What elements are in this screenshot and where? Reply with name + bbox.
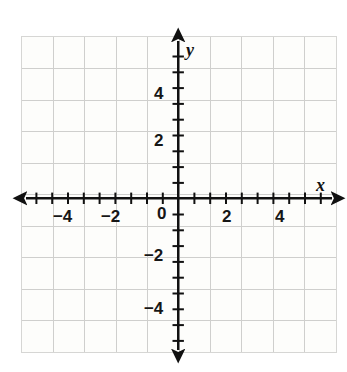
x-axis-label: x xyxy=(316,176,325,194)
x-tick-label-neg4: −4 xyxy=(53,208,72,225)
axes-layer xyxy=(0,0,347,372)
y-tick-label-pos2: 2 xyxy=(154,132,163,149)
x-tick-label-pos2: 2 xyxy=(222,208,231,225)
x-tick-label-neg2: −2 xyxy=(101,208,120,225)
origin-label: 0 xyxy=(157,205,166,222)
y-tick-label-pos4: 4 xyxy=(154,85,163,102)
x-tick-label-pos4: 4 xyxy=(275,208,284,225)
y-tick-label-neg4: −4 xyxy=(144,300,163,317)
coordinate-plane-figure: −4 −2 0 2 4 4 2 −2 −4 x y xyxy=(0,0,347,372)
y-tick-label-neg2: −2 xyxy=(144,247,163,264)
y-axis-label: y xyxy=(186,41,194,59)
